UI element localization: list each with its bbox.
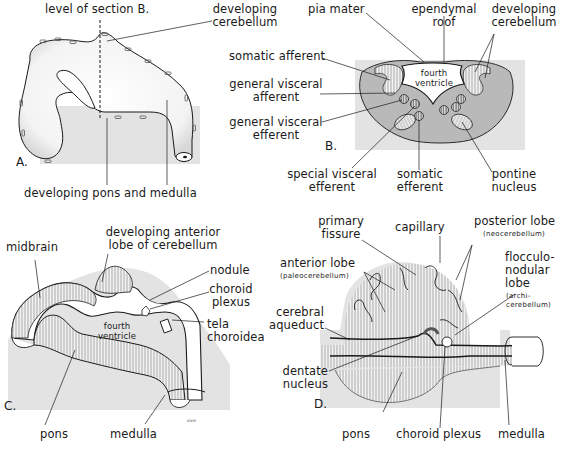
label-ependymal-roof: ependymal roof bbox=[408, 3, 480, 29]
label-choroid-plexus-d: choroid plexus bbox=[396, 428, 481, 441]
label-fourth-ventricle-b: fourth ventricle bbox=[410, 68, 458, 88]
label-archicerebellum: (archi- cerebellum) bbox=[506, 292, 551, 310]
label-nodule: nodule bbox=[210, 264, 250, 277]
label-primary-fissure: primary fissure bbox=[316, 215, 366, 241]
label-dentate-nucleus: dentate nucleus bbox=[270, 365, 328, 391]
label-flocculonodular-lobe: flocculo- nodular lobe bbox=[505, 251, 555, 290]
panel-a-drawing bbox=[19, 20, 212, 185]
label-special-visceral-efferent: special visceral efferent bbox=[282, 168, 382, 194]
label-developing-cerebellum-b: developing cerebellum bbox=[488, 3, 560, 29]
label-posterior-lobe: posterior lobe bbox=[474, 215, 555, 228]
label-developing-cerebellum-a: developing cerebellum bbox=[210, 3, 280, 29]
label-developing-anterior-lobe: developing anterior lobe of cerebellum bbox=[100, 226, 226, 252]
artist-signature: dale bbox=[187, 414, 196, 427]
label-general-visceral-efferent: general visceral efferent bbox=[228, 116, 324, 142]
label-medulla-c: medulla bbox=[110, 428, 157, 441]
label-general-visceral-afferent: general visceral afferent bbox=[228, 78, 324, 104]
label-pons-d: pons bbox=[342, 428, 370, 441]
panel-b-drawing bbox=[320, 13, 525, 172]
label-choroid-plexus-c: choroid plexus bbox=[204, 283, 258, 309]
label-cerebral-aqueduct: cerebral aqueduct bbox=[268, 306, 324, 332]
label-pontine-nucleus: pontine nucleus bbox=[484, 168, 544, 194]
label-paleocerebellum: (paleocerebellum) bbox=[280, 272, 349, 281]
panel-label-c: C. bbox=[4, 400, 16, 413]
panel-label-d: D. bbox=[314, 398, 327, 411]
label-neocerebellum: (neocerebellum) bbox=[483, 230, 545, 239]
label-somatic-afferent: somatic afferent bbox=[229, 50, 325, 63]
label-pia-mater: pia mater bbox=[308, 3, 365, 16]
label-medulla-d: medulla bbox=[498, 428, 545, 441]
label-developing-pons-and-medulla: developing pons and medulla bbox=[24, 187, 197, 200]
label-midbrain: midbrain bbox=[6, 241, 58, 254]
panel-label-a: A. bbox=[16, 156, 28, 169]
label-anterior-lobe-d: anterior lobe bbox=[280, 257, 355, 270]
label-tela-choroidea: tela choroidea bbox=[207, 318, 265, 344]
label-capillary: capillary bbox=[395, 221, 445, 234]
panel-label-b: B. bbox=[325, 140, 337, 153]
label-level-of-section-b: level of section B. bbox=[45, 3, 149, 16]
label-pons-c: pons bbox=[40, 428, 68, 441]
label-somatic-efferent: somatic efferent bbox=[392, 168, 448, 194]
label-fourth-ventricle-c: fourth ventricle bbox=[92, 321, 142, 341]
